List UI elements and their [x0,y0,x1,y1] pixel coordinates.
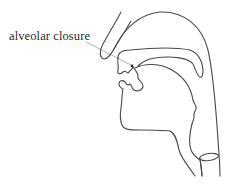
vocal-tract-diagram [0,0,235,186]
annotation-leader-line [86,42,131,65]
head-outline [114,12,220,176]
lower-lip-outline [119,67,195,176]
tongue-outline [135,64,196,124]
larynx-ellipse [199,152,219,162]
closure-point-marker [131,65,134,68]
palate-upper-outline [118,48,203,77]
pharynx-outline [189,124,202,176]
